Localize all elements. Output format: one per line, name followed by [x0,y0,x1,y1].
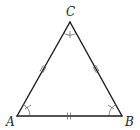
angle-b-mark [108,105,116,116]
side-bc [70,22,122,116]
angle-a-mark [23,105,31,116]
vertex-label-b: B [124,115,134,129]
vertex-label-a: A [5,115,15,129]
angle-c-mark [64,31,77,38]
vertex-label-c: C [66,5,75,19]
side-ca [17,22,70,116]
triangle-diagram: C A B [0,0,140,130]
